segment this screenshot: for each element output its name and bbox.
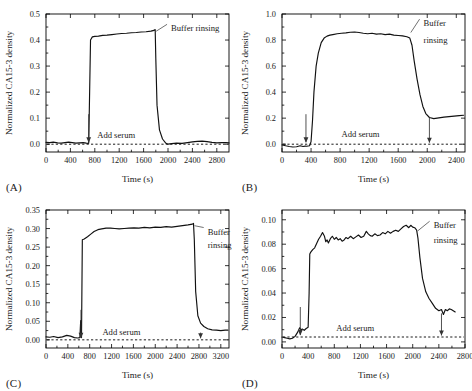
x-tick-label: 0 xyxy=(44,352,48,361)
y-tick-label: 0.4 xyxy=(266,88,277,97)
x-tick-label: 800 xyxy=(89,156,101,165)
y-tick-label: 0.20 xyxy=(25,262,40,271)
panel-d-svg: 0400800120016002000240028000.000.020.040… xyxy=(236,196,472,391)
buffer-rinsing-leader xyxy=(194,226,203,228)
x-tick-label: 1200 xyxy=(352,352,369,361)
data-curve xyxy=(46,223,228,338)
panel-label-b: (B) xyxy=(242,181,257,193)
buffer-rinsing-leader xyxy=(411,19,420,32)
y-axis-title: Normalized CA15-3 density xyxy=(4,227,14,332)
add-serum-arrowhead xyxy=(86,137,91,143)
y-tick-label: 0.8 xyxy=(266,36,276,45)
x-tick-label: 2400 xyxy=(169,352,186,361)
x-tick-label: 2400 xyxy=(431,352,448,361)
x-tick-label: 800 xyxy=(83,352,95,361)
y-tick-label: 0.2 xyxy=(30,88,40,97)
final-level-arrowhead xyxy=(439,331,444,336)
annotation-buffer-rinsing: rinsing xyxy=(208,240,233,250)
data-curve xyxy=(46,30,229,145)
y-tick-label: 1.0 xyxy=(266,10,276,19)
figure-panel-grid: 0400800120016002000240028000.00.10.20.30… xyxy=(0,0,472,391)
x-axis-title: Time (s) xyxy=(358,174,389,184)
x-tick-label: 0 xyxy=(280,156,284,165)
annotation-buffer-rinsing: rinsing xyxy=(424,35,449,45)
y-tick-label: 0.0 xyxy=(266,140,276,149)
x-tick-label: 2800 xyxy=(209,156,226,165)
y-tick-label: 0.25 xyxy=(25,243,40,252)
y-tick-label: 0.10 xyxy=(25,299,40,308)
y-tick-label: 0.02 xyxy=(261,313,276,322)
annotation-add-serum: Add serum xyxy=(341,129,379,139)
panel-label-d: (D) xyxy=(242,377,258,389)
y-tick-label: 0.4 xyxy=(30,36,41,45)
x-tick-label: 1200 xyxy=(361,156,378,165)
y-tick-label: 0.00 xyxy=(25,336,40,345)
x-tick-label: 2400 xyxy=(184,156,201,165)
y-tick-label: 0.10 xyxy=(261,216,276,225)
chart-panel-b: 040080012001600200024000.00.20.40.60.81.… xyxy=(236,0,472,195)
data-curve xyxy=(282,225,455,339)
x-tick-label: 400 xyxy=(305,156,317,165)
add-serum-arrowhead xyxy=(304,137,309,143)
x-tick-label: 800 xyxy=(334,156,346,165)
x-tick-label: 400 xyxy=(302,352,314,361)
x-tick-label: 2000 xyxy=(404,352,421,361)
x-tick-label: 400 xyxy=(62,352,74,361)
y-tick-label: 0.6 xyxy=(266,62,276,71)
y-tick-label: 0.06 xyxy=(261,265,276,274)
y-tick-label: 0.00 xyxy=(261,338,276,347)
x-tick-label: 0 xyxy=(44,156,48,165)
y-tick-label: 0.15 xyxy=(25,280,40,289)
annotation-buffer-rinsing: Buffer rinsing xyxy=(171,23,220,33)
final-level-arrowhead xyxy=(198,333,203,338)
buffer-rinsing-leader xyxy=(418,221,430,231)
annotation-add-serum: Add serum xyxy=(336,323,374,333)
x-axis-title: Time (s) xyxy=(122,174,153,184)
chart-panel-c: 04008001200160020002400280032000.000.050… xyxy=(0,196,236,391)
y-tick-label: 0.5 xyxy=(30,10,40,19)
y-tick-label: 0.30 xyxy=(25,225,40,234)
buffer-rinsing-leader xyxy=(156,24,167,31)
x-tick-label: 2800 xyxy=(457,352,472,361)
add-serum-arrowhead xyxy=(298,330,303,336)
x-tick-label: 2000 xyxy=(419,156,436,165)
x-tick-label: 1600 xyxy=(135,156,152,165)
panel-c-svg: 04008001200160020002400280032000.000.050… xyxy=(0,196,236,391)
x-tick-label: 1600 xyxy=(390,156,407,165)
final-level-arrowhead xyxy=(427,138,432,143)
x-tick-label: 800 xyxy=(328,352,340,361)
annotation-buffer-rinsing: rinsing xyxy=(434,235,459,245)
panel-a-svg: 0400800120016002000240028000.00.10.20.30… xyxy=(0,0,236,195)
chart-panel-a: 0400800120016002000240028000.00.10.20.30… xyxy=(0,0,236,195)
annotation-buffer-rinsing: Buffer xyxy=(424,18,446,28)
panel-label-a: (A) xyxy=(6,181,22,193)
x-tick-label: 2000 xyxy=(147,352,164,361)
x-tick-label: 1200 xyxy=(111,156,128,165)
annotation-add-serum: Add serum xyxy=(102,327,140,337)
chart-panel-d: 0400800120016002000240028000.000.020.040… xyxy=(236,196,472,391)
y-axis-title: Normalized CA15-3 density xyxy=(240,227,250,332)
y-tick-label: 0.04 xyxy=(261,289,276,298)
y-tick-label: 0.2 xyxy=(266,114,276,123)
x-tick-label: 400 xyxy=(64,156,76,165)
y-tick-label: 0.1 xyxy=(30,114,40,123)
y-tick-label: 0.0 xyxy=(30,140,40,149)
x-tick-label: 2400 xyxy=(448,156,465,165)
annotation-buffer-rinsing: Buffer xyxy=(208,227,230,237)
x-axis-title: Time (s) xyxy=(122,370,153,380)
y-tick-label: 0.05 xyxy=(25,317,40,326)
annotation-add-serum: Add serum xyxy=(97,130,135,140)
x-axis-title: Time (s) xyxy=(358,370,389,380)
x-tick-label: 2800 xyxy=(191,352,208,361)
y-tick-label: 0.3 xyxy=(30,62,40,71)
x-tick-label: 1200 xyxy=(103,352,120,361)
x-tick-label: 1600 xyxy=(125,352,142,361)
x-tick-label: 0 xyxy=(280,352,284,361)
panel-label-c: (C) xyxy=(6,377,21,389)
plot-frame xyxy=(46,14,229,152)
panel-b-svg: 040080012001600200024000.00.20.40.60.81.… xyxy=(236,0,472,195)
x-tick-label: 1600 xyxy=(378,352,395,361)
x-tick-label: 2000 xyxy=(160,156,177,165)
annotation-buffer-rinsing: Buffer xyxy=(434,220,456,230)
y-tick-label: 0.35 xyxy=(25,206,40,215)
